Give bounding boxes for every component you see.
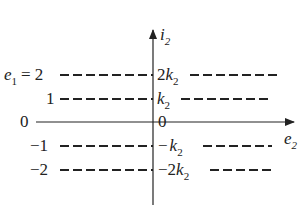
origin-label: 0 (158, 112, 167, 131)
characteristic-diagram: i2 e2 e1=2 1 0 −1 −2 2k2 k2 0 −k2 −2k2 (0, 0, 307, 209)
level-neg1-left-label: −1 (30, 136, 48, 155)
level-1-current-label: k2 (157, 89, 170, 111)
level-0-left-label: 0 (20, 112, 29, 131)
level-neg2-current-label: −2k2 (158, 160, 189, 182)
level-2-left-label: e1=2 (4, 65, 43, 87)
level-neg1-current-label: −k2 (158, 136, 183, 158)
vertical-axis-label: i2 (160, 25, 171, 47)
level-2-current-label: 2k2 (157, 65, 179, 87)
level-neg2-left-label: −2 (30, 160, 48, 179)
horizontal-axis-label: e2 (284, 129, 298, 151)
level-1-left-label: 1 (46, 89, 55, 108)
